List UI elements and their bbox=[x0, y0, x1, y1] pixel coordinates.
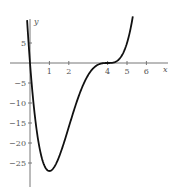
y-tick-label: −25 bbox=[9, 159, 26, 168]
x-tick-label: 4 bbox=[105, 67, 110, 76]
y-tick-label: −5 bbox=[14, 79, 26, 88]
y-tick-label: −15 bbox=[9, 119, 26, 128]
y-axis: 5−5−10−15−20−25 y bbox=[9, 17, 39, 187]
x-tick-label: 2 bbox=[66, 67, 71, 76]
function-plot: 12456 x 5−5−10−15−20−25 y bbox=[0, 0, 177, 190]
x-tick-label: 1 bbox=[47, 67, 52, 76]
y-tick-label: −20 bbox=[9, 139, 26, 148]
x-axis-label: x bbox=[163, 65, 168, 74]
x-tick-label: 6 bbox=[144, 67, 149, 76]
function-curve bbox=[27, 16, 133, 171]
y-tick-label: 5 bbox=[21, 39, 26, 48]
y-tick-label: −10 bbox=[9, 99, 26, 108]
x-tick-label: 5 bbox=[124, 67, 129, 76]
y-axis-label: y bbox=[33, 17, 39, 26]
